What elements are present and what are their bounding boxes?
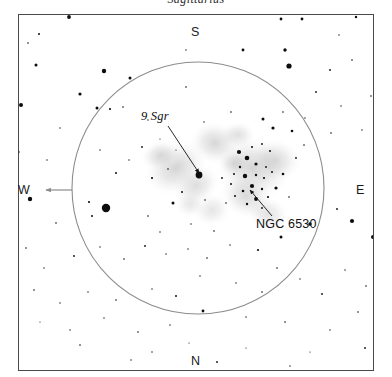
chart-caption: Sagittarius: [0, 0, 392, 6]
compass-label-north: N: [191, 355, 200, 368]
annotation-label-ngc-6530: NGC 6530: [256, 218, 317, 231]
annotation-label-9-sgr: 9 Sgr: [141, 110, 169, 123]
chart-frame: [18, 14, 374, 371]
compass-label-west: W: [18, 184, 30, 197]
star-chart: Sagittarius: [0, 0, 392, 377]
compass-label-east: E: [356, 184, 365, 197]
compass-label-south: S: [191, 26, 200, 39]
